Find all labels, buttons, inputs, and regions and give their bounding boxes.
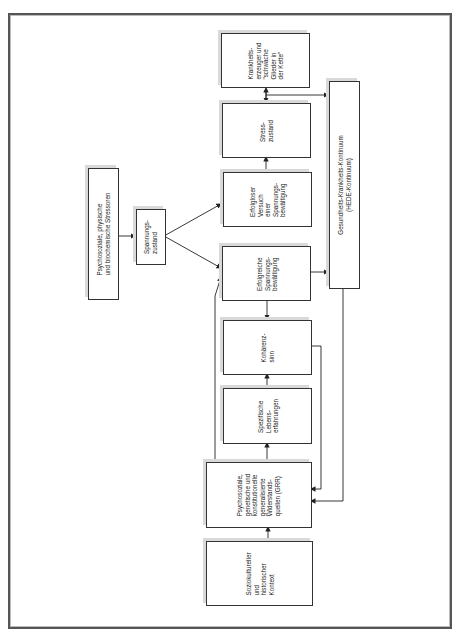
node-kohaerenzsinn: Kohärenz- sinn — [223, 320, 312, 375]
node-grr: Psychosoziale, genetische und konstituti… — [206, 462, 312, 528]
node-label: Stress- zustand — [259, 119, 274, 141]
node-erfolgloser: Erfolgloser Versuch einer Spannungs- bew… — [223, 172, 312, 227]
connector-lines — [0, 0, 459, 634]
node-hede: Gesundheits-Krankheits-Kontinuum (HEDE-K… — [329, 81, 360, 289]
node-stresszustand: Stress- zustand — [222, 103, 311, 158]
node-stressoren: Psychosoziale, physische und biochemisch… — [88, 168, 119, 300]
node-erfolgreiche: Erfolgreiche Spannungs- bewältigung — [222, 246, 311, 301]
node-label: Kohärenz- sinn — [260, 333, 275, 362]
node-label: Krankheits- erzeuger und "schwache Glied… — [247, 42, 285, 79]
node-label: Gesundheits-Krankheits-Kontinuum (HEDE-K… — [337, 135, 352, 234]
node-label: Erfolgreiche Spannungs- bewältigung — [255, 257, 278, 291]
node-label: Spannungs- zustand — [143, 220, 158, 254]
node-label: Erfolgloser Versuch einer Spannungs- bew… — [249, 183, 287, 217]
node-kontext: Soziokultureller und historischer Kontex… — [206, 541, 313, 606]
node-label: Psychosoziale, genetische und konstituti… — [236, 474, 282, 517]
node-lebenserfahrungen: Spezifische Lebens- erfahrungen — [223, 388, 312, 444]
node-spannungszustand: Spannungs- zustand — [136, 209, 166, 265]
node-label: Psychosoziale, physische und biochemisch… — [96, 193, 111, 276]
node-label: Spezifische Lebens- erfahrungen — [256, 399, 279, 433]
node-krankheitserzeuger: Krankheits- erzeuger und "schwache Glied… — [221, 33, 310, 88]
node-label: Soziokultureller und historischer Kontex… — [244, 552, 274, 595]
